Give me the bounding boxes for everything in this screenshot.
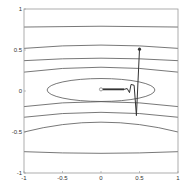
y-tick-label: 0.5	[14, 47, 23, 53]
y-tick-label: 0	[19, 88, 23, 94]
contour-line	[24, 152, 178, 154]
contour-line	[24, 102, 178, 107]
x-tick-label: -1	[21, 175, 27, 181]
contour-line	[24, 112, 178, 117]
contour-line	[24, 67, 178, 72]
x-tick-label: 0.5	[135, 175, 144, 181]
x-tick-label: 1	[176, 175, 180, 181]
start-point-marker	[138, 48, 141, 51]
contour-line	[24, 26, 178, 27]
optimization-trajectory	[99, 48, 141, 116]
contour-line	[24, 58, 178, 60]
y-tick-label: 1	[19, 6, 23, 12]
contour-line	[24, 45, 178, 48]
y-tick-label: -1	[17, 170, 23, 176]
x-tick-label: 0	[99, 175, 103, 181]
x-tick-label: -0.5	[57, 175, 68, 181]
contour-plot: -1-0.500.51 -1-0.500.51	[0, 0, 190, 187]
y-tick-label: -0.5	[12, 129, 23, 135]
x-axis-ticks: -1-0.500.51	[21, 171, 180, 181]
minimum-point-marker	[99, 88, 102, 91]
contour-line	[24, 122, 178, 132]
trajectory-path	[101, 49, 140, 115]
